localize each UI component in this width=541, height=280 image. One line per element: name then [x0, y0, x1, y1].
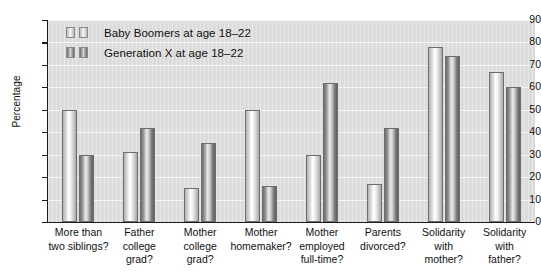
x-axis-category-label: Solidaritywithmother? [411, 226, 476, 267]
legend-label: Baby Boomers at age 18–22 [104, 27, 251, 39]
x-axis-category-label: Motherhomemaker? [229, 226, 294, 253]
y-tick-mark [42, 87, 47, 88]
y-axis-title: Percentage [11, 52, 22, 152]
x-axis-category-label-line: grad? [107, 253, 172, 267]
x-axis-category-label-line: Solidarity [411, 226, 476, 240]
bar-group [352, 20, 413, 222]
bar [306, 155, 321, 222]
bar [506, 87, 521, 222]
bar [323, 83, 338, 222]
bar-chart: Percentage 9080706050403020100 More than… [0, 0, 541, 280]
bar [445, 56, 460, 222]
bar-group [474, 20, 535, 222]
chart-legend: Baby Boomers at age 18–22Generation X at… [66, 24, 251, 64]
x-axis-line [47, 222, 535, 223]
legend-swatch-group [66, 47, 94, 58]
y-tick-mark [42, 200, 47, 201]
y-tick-mark [42, 132, 47, 133]
x-axis-category-label-line: Mother [290, 226, 355, 240]
x-axis-category-label-line: Mother [168, 226, 233, 240]
bar [489, 72, 504, 222]
bar [123, 152, 138, 222]
x-axis-category-label-line: full-time? [290, 253, 355, 267]
x-axis-category-label: Motheremployedfull-time? [290, 226, 355, 267]
y-tick-mark [42, 177, 47, 178]
x-axis-category-label-line: divorced? [350, 240, 415, 254]
x-axis-category-label-line: with [411, 240, 476, 254]
bar [428, 47, 443, 222]
x-axis-category-label-line: college [168, 240, 233, 254]
y-tick-mark [42, 110, 47, 111]
bar [262, 186, 277, 222]
x-axis-category-label-line: employed [290, 240, 355, 254]
bar [79, 155, 94, 222]
x-axis-category-label-line: Solidarity [472, 226, 537, 240]
x-axis-category-label-line: homemaker? [229, 240, 294, 254]
x-axis-category-label-line: college [107, 240, 172, 254]
legend-swatch [79, 27, 88, 38]
bar-group [413, 20, 474, 222]
legend-swatch [79, 47, 88, 58]
x-axis-category-label-line: Mother [229, 226, 294, 240]
x-axis-category-label-line: Father [107, 226, 172, 240]
x-axis-category-label: More thantwo siblings? [46, 226, 111, 253]
bar-group [292, 20, 353, 222]
bar [62, 110, 77, 222]
x-axis-category-label-line: grad? [168, 253, 233, 267]
legend-swatch-group [66, 27, 94, 38]
x-axis-category-label: Mothercollegegrad? [168, 226, 233, 267]
bar [384, 128, 399, 222]
bar [245, 110, 260, 222]
x-axis-category-label-line: More than [46, 226, 111, 240]
x-axis-category-label: Solidaritywithfather? [472, 226, 537, 267]
x-axis-category-label-line: mother? [411, 253, 476, 267]
x-axis-category-label: Parentsdivorced? [350, 226, 415, 253]
legend-swatch [66, 27, 75, 38]
y-tick-mark [42, 42, 47, 43]
bar [140, 128, 155, 222]
legend-swatch [66, 47, 75, 58]
y-tick-mark [42, 65, 47, 66]
x-axis-category-label-line: father? [472, 253, 537, 267]
x-axis-category-labels: More thantwo siblings?Fathercollegegrad?… [48, 226, 534, 280]
bar [184, 188, 199, 222]
x-axis-category-label-line: Parents [350, 226, 415, 240]
legend-item: Baby Boomers at age 18–22 [66, 24, 251, 41]
bar [201, 143, 216, 222]
bar [367, 184, 382, 222]
y-tick-mark [42, 20, 47, 21]
y-tick-mark [42, 155, 47, 156]
legend-label: Generation X at age 18–22 [104, 47, 243, 59]
x-axis-category-label-line: with [472, 240, 537, 254]
x-axis-category-label-line: two siblings? [46, 240, 111, 254]
legend-item: Generation X at age 18–22 [66, 44, 251, 61]
x-axis-category-label: Fathercollegegrad? [107, 226, 172, 267]
